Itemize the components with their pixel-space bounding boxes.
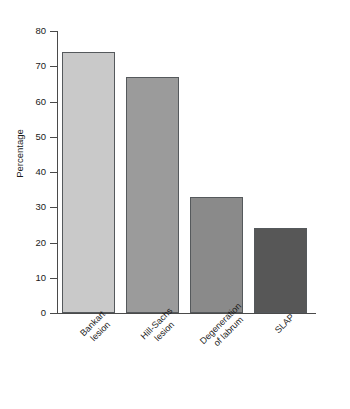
y-axis-tick — [50, 207, 57, 208]
bar[interactable] — [190, 197, 243, 313]
y-axis-tick-label: 0 — [0, 308, 46, 318]
y-axis-tick — [50, 66, 57, 67]
y-axis-tick-label: 70 — [0, 61, 46, 71]
y-axis-tick — [50, 137, 57, 138]
bar-chart: Percentage 01020304050607080 Bankart les… — [0, 0, 350, 409]
y-axis-tick-label: 50 — [0, 132, 46, 142]
y-axis-tick — [50, 313, 57, 314]
y-axis-tick-label: 20 — [0, 238, 46, 248]
figure: Percentage 01020304050607080 Bankart les… — [0, 0, 350, 409]
y-axis-tick-label: 30 — [0, 202, 46, 212]
bar[interactable] — [126, 77, 179, 313]
y-axis-tick — [50, 243, 57, 244]
y-axis-tick-label: 60 — [0, 97, 46, 107]
y-axis-tick-label: 40 — [0, 167, 46, 177]
y-axis-tick-label: 10 — [0, 273, 46, 283]
y-axis-title: Percentage — [14, 114, 25, 194]
bar[interactable] — [62, 52, 115, 313]
y-axis-tick — [50, 172, 57, 173]
y-axis-tick — [50, 31, 57, 32]
y-axis-tick — [50, 278, 57, 279]
y-axis-tick-label: 80 — [0, 26, 46, 36]
plot-area — [57, 31, 312, 313]
y-axis-tick — [50, 102, 57, 103]
